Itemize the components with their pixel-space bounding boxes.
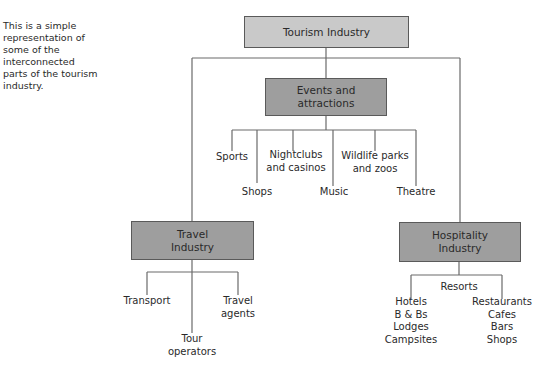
leaf-nightclubs-casinos: Nightclubs and casinos [266,149,325,174]
wildlife-line1: Wildlife parks [341,150,409,163]
leaf-music: Music [320,186,348,199]
shops-label: Shops [242,186,272,199]
tour-line2: operators [168,346,216,359]
sports-label: Sports [216,151,248,164]
events-label-line2: attractions [298,97,355,110]
leaf-travel-agents: Travel agents [221,295,255,320]
leaf-resorts: Resorts [440,281,477,294]
leaf-tour-operators: Tour operators [168,333,216,358]
agents-line2: agents [221,308,255,321]
wildlife-line2: and zoos [341,163,409,176]
hosp-shops-label: Shops [472,334,532,347]
resorts-label: Resorts [440,281,477,294]
leaf-wildlife-zoos: Wildlife parks and zoos [341,150,409,175]
leaf-accommodation: Hotels B & Bs Lodges Campsites [385,296,437,346]
travel-label-line1: Travel [177,228,208,241]
tourism-industry-node: Tourism Industry [244,16,409,48]
events-attractions-node: Events and attractions [265,78,387,116]
tourism-industry-label: Tourism Industry [283,26,370,39]
lodges-label: Lodges [385,321,437,334]
cafes-label: Cafes [472,309,532,322]
leaf-theatre: Theatre [397,186,436,199]
travel-industry-node: Travel Industry [131,221,254,260]
bars-label: Bars [472,321,532,334]
leaf-sports: Sports [216,151,248,164]
connector-lines [0,0,553,372]
hospitality-label-line2: Industry [438,242,481,255]
travel-label-line2: Industry [171,241,214,254]
bnb-label: B & Bs [385,309,437,322]
campsites-label: Campsites [385,334,437,347]
transport-label: Transport [124,295,171,308]
music-label: Music [320,186,348,199]
agents-line1: Travel [221,295,255,308]
restaurants-label: Restaurants [472,296,532,309]
leaf-food-drink: Restaurants Cafes Bars Shops [472,296,532,346]
nightclubs-line1: Nightclubs [266,149,325,162]
hotels-label: Hotels [385,296,437,309]
hospitality-label-line1: Hospitality [432,229,488,242]
leaf-transport: Transport [124,295,171,308]
leaf-shops: Shops [242,186,272,199]
nightclubs-line2: and casinos [266,162,325,175]
hospitality-industry-node: Hospitality Industry [399,222,521,262]
tour-line1: Tour [168,333,216,346]
events-label-line1: Events and [297,84,356,97]
theatre-label: Theatre [397,186,436,199]
